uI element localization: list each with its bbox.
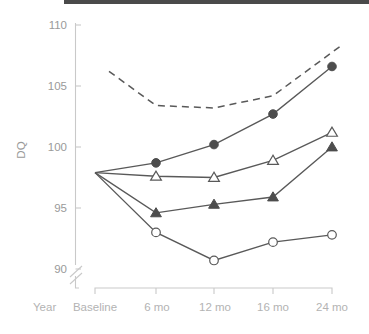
y-tick-label-90: 90 [54,263,67,275]
y-tick-label-100: 100 [48,141,67,153]
x-axis-corner-label: Year [33,301,56,313]
series-path-open-triangle [95,132,332,177]
x-axis [95,288,332,294]
marker-filled-circle [152,159,161,168]
y-axis [70,23,82,288]
series-filled-circle [95,62,336,172]
x-tick-label-16mo: 16 mo [257,301,289,313]
marker-filled-circle [269,110,278,119]
series-layer [95,46,341,265]
series-path-filled-circle [95,66,332,172]
dq-line-chart: 110 105 100 95 90 DQ Year Baseline 6 mo … [0,0,369,334]
marker-filled-circle [210,140,219,149]
series-path-dashed-upper [109,46,341,108]
x-tick-label-6mo: 6 mo [144,301,170,313]
x-tick-label-24mo: 24 mo [316,301,348,313]
marker-filled-triangle [327,142,338,151]
marker-open-circle [210,256,219,265]
series-open-circle [95,173,336,265]
series-dashed-upper [109,46,341,108]
y-tick-label-105: 105 [48,80,67,92]
marker-open-triangle [327,127,338,136]
marker-filled-circle [328,62,337,71]
y-axis-title: DQ [15,141,27,158]
x-tick-label-baseline: Baseline [73,301,117,313]
marker-open-circle [152,228,161,237]
y-tick-label-95: 95 [54,202,67,214]
series-path-open-circle [95,173,332,261]
x-tick-label-12mo: 12 mo [199,301,231,313]
marker-open-circle [269,238,278,247]
marker-open-triangle [268,155,279,164]
chart-container: 110 105 100 95 90 DQ Year Baseline 6 mo … [0,0,369,334]
y-tick-label-110: 110 [49,19,67,31]
marker-open-circle [328,231,337,240]
